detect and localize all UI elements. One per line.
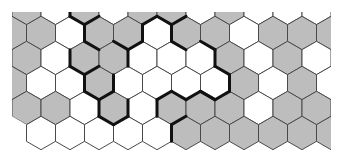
hex-grid-diagram	[0, 0, 345, 158]
